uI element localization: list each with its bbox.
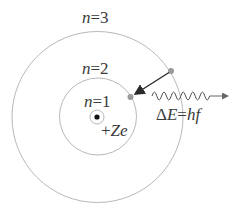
label-n2: n=2 xyxy=(82,59,109,78)
label-n1: n=1 xyxy=(84,92,111,111)
label-n3: n=3 xyxy=(82,8,109,27)
transition-arrow xyxy=(136,73,169,94)
electron-n2 xyxy=(128,94,134,100)
bohr-model-diagram: n=3 n=2 n=1 +Ze ΔE=hf xyxy=(0,0,243,215)
label-nucleus-charge: +Ze xyxy=(101,121,128,140)
label-photon-energy: ΔE=hf xyxy=(156,105,202,124)
nucleus xyxy=(94,114,99,119)
